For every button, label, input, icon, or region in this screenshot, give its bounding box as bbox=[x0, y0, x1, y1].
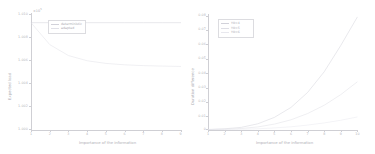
legend-label-y0-6: Y0=6 bbox=[231, 31, 240, 34]
right-chart-legend[interactable]: Y0=4 Y0=5 Y0=6 bbox=[218, 19, 254, 38]
legend-label-adapted: adapted bbox=[61, 27, 74, 30]
legend-item-y0-6[interactable]: Y0=6 bbox=[221, 31, 251, 36]
legend-item-adapted[interactable]: adapted bbox=[51, 27, 83, 32]
legend-swatch-adapted bbox=[51, 28, 59, 29]
figure-root: ×105 1.010 1.008 1.006 1.004 1.002 1.000… bbox=[0, 0, 375, 154]
legend-swatch-deterministic bbox=[51, 24, 59, 25]
legend-swatch-y0-6 bbox=[221, 32, 229, 33]
left-chart-curves bbox=[0, 0, 190, 154]
left-chart-legend[interactable]: deterministic adapted bbox=[48, 20, 86, 34]
right-chart-panel: 0.08 0.07 0.06 0.05 0.04 0.03 0.02 0.01 … bbox=[190, 0, 375, 154]
legend-swatch-y0-4 bbox=[221, 23, 229, 24]
legend-label-y0-4: Y0=4 bbox=[231, 22, 240, 25]
legend-swatch-y0-5 bbox=[221, 28, 229, 29]
left-chart-panel: ×105 1.010 1.008 1.006 1.004 1.002 1.000… bbox=[0, 0, 190, 154]
